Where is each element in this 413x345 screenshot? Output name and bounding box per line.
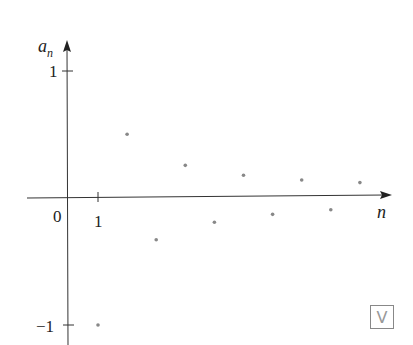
- data-point: [300, 178, 304, 182]
- x-tick-label-1: 1: [94, 213, 103, 230]
- data-point: [358, 181, 362, 185]
- x-axis: [27, 195, 385, 198]
- data-points: [96, 132, 362, 326]
- data-point: [242, 173, 246, 177]
- plot-area: [0, 0, 413, 345]
- video-badge-icon[interactable]: V: [370, 305, 394, 329]
- data-point: [213, 220, 217, 224]
- data-point: [96, 323, 100, 327]
- data-point: [329, 208, 333, 212]
- x-axis-label: n: [377, 203, 386, 221]
- data-point: [154, 238, 158, 242]
- data-point: [125, 132, 129, 136]
- y-tick-label-neg1: −1: [36, 318, 54, 335]
- y-axis: [67, 47, 68, 345]
- origin-label: 0: [53, 208, 62, 225]
- data-point: [184, 164, 188, 168]
- y-tick-label-1: 1: [49, 63, 58, 80]
- y-axis-label: an: [38, 37, 53, 59]
- data-point: [271, 213, 275, 217]
